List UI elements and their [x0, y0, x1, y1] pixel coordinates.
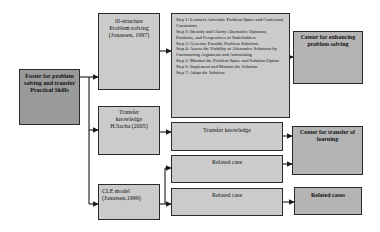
branch-label-line: (Jonassen, 1997): [99, 32, 159, 39]
related-case-label: Related case: [212, 192, 242, 198]
branch-ill-structure-box: ill-structure Problem solving (Jonassen,…: [98, 13, 160, 90]
branch-label-line: Problem solving: [99, 25, 159, 32]
related-case-box-2: Related case: [171, 188, 283, 216]
related-case-label: Related case: [212, 159, 242, 165]
branch-cle-box: CLE model (Jonassen,1999): [98, 184, 160, 220]
transfer-knowledge-box: Transfer knowledge: [171, 122, 283, 151]
related-case-box-1: Related case: [171, 155, 283, 183]
branch-label-line: H.Sacha (2005): [99, 123, 159, 130]
root-node-box: Foster for problem solving and transfer …: [19, 69, 80, 125]
transfer-knowledge-label: Transfer knowledge: [203, 127, 251, 133]
outcome-related-cases-box: Related cases: [294, 187, 362, 215]
step-item: Step 1: Learners Articulate Problem Spac…: [176, 17, 285, 29]
step-item: Step 7: Adapt the Solution: [176, 70, 285, 76]
outcome-enhancing-box: Center for enhancing problem solving: [293, 31, 363, 84]
outcome-transfer-box: Center for transfer of learning: [292, 126, 363, 175]
outcome-transfer-label: Center for transfer of learning: [300, 129, 355, 142]
branch-label-line: (Jonassen,1999): [102, 195, 159, 202]
branch-transfer-box: Transfer knowledge H.Sacha (2005): [98, 106, 160, 155]
step-item: Step 2: Identify and Clarify Alternative…: [176, 29, 285, 41]
branch-label-line: ill-structure: [99, 18, 159, 25]
branch-label-line: knowledge: [99, 116, 159, 123]
outcome-enhancing-label: Center for enhancing problem solving: [301, 34, 355, 47]
branch-label-line: Transfer: [99, 109, 159, 116]
problem-solving-steps-box: Step 1: Learners Articulate Problem Spac…: [171, 13, 290, 118]
branch-label-line: CLE model: [102, 188, 159, 195]
step-item: Step 4: Assess the Viability of Alternat…: [176, 46, 285, 58]
outcome-related-cases-label: Related cases: [311, 192, 345, 198]
root-node-label: Foster for problem solving and transfer …: [24, 73, 75, 93]
